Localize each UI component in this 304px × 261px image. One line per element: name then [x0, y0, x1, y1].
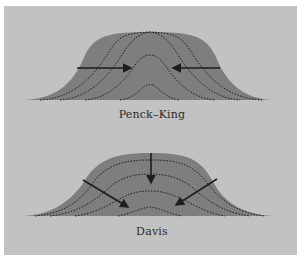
- davis-caption: Davis: [0, 225, 304, 238]
- mountain-shape: [25, 32, 272, 100]
- mountain-shape: [24, 153, 272, 216]
- penck-king-profile: [25, 32, 272, 100]
- davis-profile: [24, 153, 272, 216]
- slope-evolution-diagram: [0, 0, 304, 261]
- penck-king-caption: Penck–King: [0, 108, 304, 121]
